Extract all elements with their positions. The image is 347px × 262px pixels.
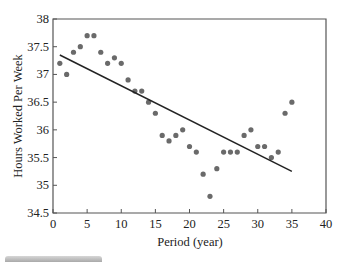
- scroll-bar-fragment: [5, 256, 102, 262]
- x-tick-label: 40: [320, 217, 333, 231]
- data-point: [248, 127, 253, 132]
- data-point: [139, 88, 144, 93]
- y-tick-label: 35: [37, 178, 50, 192]
- data-point: [289, 100, 294, 105]
- y-tick-label: 36: [37, 123, 50, 137]
- data-point: [125, 77, 130, 82]
- y-tick-label: 37: [37, 67, 50, 81]
- data-points: [57, 33, 294, 199]
- x-tick-label: 10: [115, 217, 128, 231]
- data-point: [187, 144, 192, 149]
- data-point: [64, 72, 69, 77]
- data-point: [98, 50, 103, 55]
- trend-line: [60, 55, 292, 171]
- data-point: [262, 144, 267, 149]
- data-point: [57, 61, 62, 66]
- x-tick-label: 30: [252, 217, 265, 231]
- x-tick-label: 0: [50, 217, 56, 231]
- data-point: [194, 149, 199, 154]
- plot-axes: [53, 19, 326, 213]
- data-point: [214, 166, 219, 171]
- data-point: [112, 55, 117, 60]
- x-tick-label: 20: [183, 217, 196, 231]
- data-point: [276, 149, 281, 154]
- data-point: [269, 155, 274, 160]
- data-point: [160, 133, 165, 138]
- data-point: [235, 149, 240, 154]
- data-point: [91, 33, 96, 38]
- data-point: [85, 33, 90, 38]
- data-point: [105, 61, 110, 66]
- data-point: [282, 111, 287, 116]
- plot-frame: [53, 19, 326, 213]
- data-point: [153, 111, 158, 116]
- data-point: [255, 144, 260, 149]
- data-point: [166, 138, 171, 143]
- x-axis-ticks: 0510152025303540: [50, 209, 332, 231]
- y-tick-label: 36.5: [27, 95, 49, 109]
- data-point: [228, 149, 233, 154]
- data-point: [78, 44, 83, 49]
- y-tick-label: 34.5: [27, 206, 49, 220]
- y-tick-label: 38: [37, 12, 50, 26]
- x-tick-label: 5: [84, 217, 90, 231]
- x-axis-title: Period (year): [157, 235, 223, 249]
- x-tick-label: 25: [217, 217, 230, 231]
- data-point: [201, 172, 206, 177]
- x-tick-label: 35: [286, 217, 299, 231]
- data-point: [242, 133, 247, 138]
- y-tick-label: 37.5: [27, 40, 49, 54]
- y-tick-label: 35.5: [27, 151, 49, 165]
- x-tick-label: 15: [149, 217, 162, 231]
- data-point: [221, 149, 226, 154]
- data-point: [173, 133, 178, 138]
- regression-line: [60, 55, 292, 171]
- data-point: [207, 194, 212, 199]
- data-point: [71, 50, 76, 55]
- y-axis-title: Hours Worked Per Week: [11, 53, 25, 177]
- data-point: [119, 61, 124, 66]
- data-point: [180, 127, 185, 132]
